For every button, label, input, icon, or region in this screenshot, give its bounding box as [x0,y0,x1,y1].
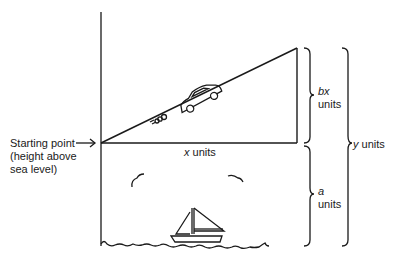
starting-point-label: Starting point (height above sea level) [10,137,77,176]
slope-line [101,48,297,143]
starting-point-line-3: sea level) [10,163,77,176]
bird-icon [228,175,243,182]
brace-bx [304,48,314,143]
a-units-label: a units [318,185,341,211]
bx-variable: bx [318,85,341,98]
a-unit-text: units [318,198,341,211]
arrow-icon [76,139,95,147]
sailboat-icon [171,208,224,242]
y-unit-text: units [362,138,385,150]
x-variable: x [184,146,190,158]
starting-point-line-1: Starting point [10,137,77,150]
bx-unit-text: units [318,98,341,111]
diagram-canvas [0,0,401,257]
a-variable: a [318,185,341,198]
car-icon [176,79,225,115]
x-units-label: x units [184,146,216,159]
brace-y [342,48,352,246]
brace-a [304,146,314,246]
y-variable: y [353,138,359,150]
x-unit-text: units [193,146,216,158]
bird-icon [132,174,144,187]
starting-point-line-2: (height above [10,150,77,163]
y-units-label: y units [353,138,385,151]
bx-units-label: bx units [318,85,341,111]
